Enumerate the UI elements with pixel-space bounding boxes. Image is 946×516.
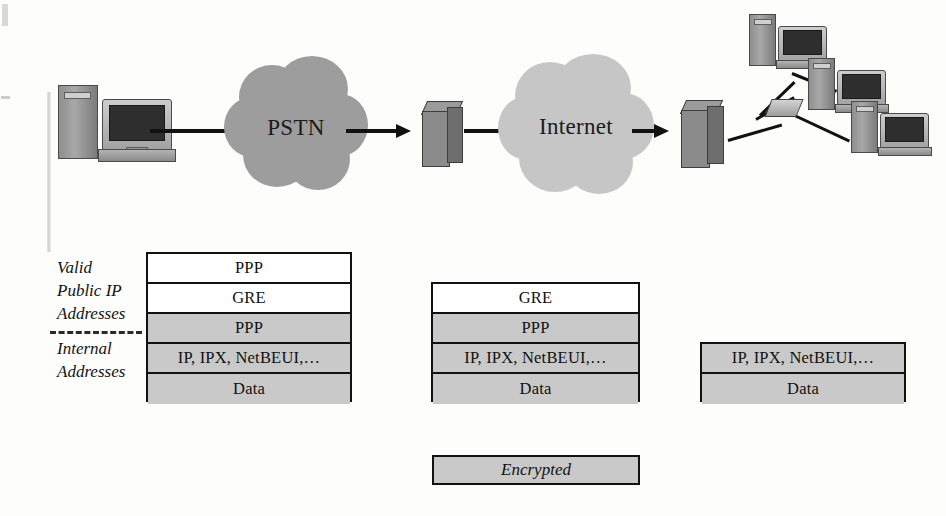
address-scope-divider — [50, 331, 142, 334]
side-label-internal-line-1: Internal — [57, 337, 125, 360]
client-pc-screen — [109, 105, 165, 141]
side-label-internal: Internal Addresses — [57, 337, 125, 383]
lan-link-gateway-to-hub — [728, 124, 783, 142]
side-label-public: Valid Public IP Addresses — [57, 256, 125, 325]
arrowhead-internet-to-gateway — [654, 124, 669, 138]
side-label-public-line-1: Valid — [57, 256, 125, 279]
scan-artifact-vertical-bar — [47, 92, 51, 252]
internet-cloud-label: Internet — [496, 114, 656, 140]
pstn-cloud-label: PSTN — [222, 115, 370, 141]
lan-pc-3 — [851, 101, 943, 155]
vpn-gateway-side — [707, 106, 724, 164]
scan-artifact-left-edge — [1, 96, 10, 99]
stack1-row-0: PPP — [148, 254, 350, 284]
side-label-public-line-2: Public IP — [57, 279, 125, 302]
stack1-row-4: Data — [148, 374, 350, 404]
client-pc — [58, 85, 188, 160]
lan-pc-3-tower — [851, 101, 878, 153]
lan-pc-3-screen — [885, 117, 924, 142]
scan-artifact-top-left — [2, 4, 8, 26]
stack3-row-1: Data — [702, 374, 904, 404]
lan-pc-2-tower — [808, 58, 835, 110]
side-label-public-line-3: Addresses — [57, 302, 125, 325]
pstn-cloud: PSTN — [222, 55, 370, 195]
stack1-row-3: IP, IPX, NetBEUI,… — [148, 344, 350, 374]
stack2-row-1: PPP — [433, 314, 638, 344]
link-pstn-to-nas — [346, 129, 400, 133]
lan-hub — [764, 99, 803, 117]
stack-client-to-nas: PPP GRE PPP IP, IPX, NetBEUI,… Data — [146, 252, 352, 402]
stack2-row-0: GRE — [433, 284, 638, 314]
lan-pc-3-keyboard — [878, 147, 932, 156]
lan-pc-3-monitor — [880, 113, 929, 149]
encrypted-legend: Encrypted — [432, 455, 640, 485]
lan-pc-1-tower — [749, 14, 776, 66]
arrowhead-pstn-to-nas — [396, 124, 411, 138]
stack-nas-to-gateway: GRE PPP IP, IPX, NetBEUI,… Data — [431, 282, 640, 402]
lan-pc-2-screen — [842, 74, 881, 99]
vpn-gateway-server — [681, 100, 729, 168]
client-pc-keyboard — [98, 149, 176, 162]
client-pc-monitor — [102, 99, 172, 151]
lan-pc-1-screen — [783, 30, 822, 55]
stack-gateway-to-lan: IP, IPX, NetBEUI,… Data — [700, 342, 906, 402]
nas-server-front — [422, 111, 450, 167]
stack3-row-0: IP, IPX, NetBEUI,… — [702, 344, 904, 374]
nas-server — [422, 101, 468, 167]
side-label-internal-line-2: Addresses — [57, 360, 125, 383]
client-pc-tower — [58, 85, 98, 159]
stack2-row-3: Data — [433, 374, 638, 404]
lan-pc-1-monitor — [778, 26, 827, 62]
stack2-row-2: IP, IPX, NetBEUI,… — [433, 344, 638, 374]
diagram-canvas: PSTN Internet — [0, 0, 946, 516]
nas-server-side — [447, 107, 463, 163]
vpn-gateway-front — [681, 110, 710, 168]
internet-cloud: Internet — [496, 52, 656, 198]
stack1-row-2: PPP — [148, 314, 350, 344]
stack1-row-1: GRE — [148, 284, 350, 314]
